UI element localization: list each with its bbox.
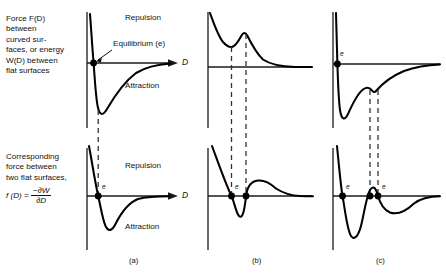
panel-label-a: (a)	[129, 256, 138, 265]
panel-a-top-axis-label: D	[182, 57, 188, 67]
panel-c-bottom-equilibrium-dot-1	[339, 193, 346, 200]
panel-c-bottom-e-label-2: e	[382, 183, 386, 190]
panel-c-top-equilibrium-dot	[334, 61, 341, 68]
panel-a-bottom-axis-label: D	[182, 190, 188, 200]
panel-c-bottom-curve	[337, 146, 440, 238]
panel-a-bottom-equilibrium-dot	[95, 193, 102, 200]
figure-container: Force F(D) between curved sur- faces, or…	[0, 0, 446, 274]
equilibrium-annotation: Equilibrium (e)	[113, 39, 165, 48]
panel-b-top-curve	[210, 13, 312, 67]
figure-plot-area	[0, 0, 446, 274]
panel-c-bottom-zero-dot	[367, 193, 374, 200]
panel-b-bottom-zero-dot	[243, 193, 250, 200]
panel-c-top-e-label: e	[340, 50, 344, 57]
panel-a-top-repulsion-label: Repulsion	[125, 13, 161, 22]
panel-a-bottom-e-label: e	[102, 183, 106, 190]
panel-a-top-equilibrium-dot	[90, 60, 97, 67]
panel-label-c: (c)	[376, 256, 385, 265]
panel-label-b: (b)	[252, 256, 261, 265]
panel-a-top-attraction-label: Attraction	[125, 81, 159, 90]
panel-a-bottom-attraction-label: Attraction	[125, 222, 159, 231]
panel-c-bottom-equilibrium-dot-2	[375, 193, 382, 200]
panel-b-bottom-equilibrium-dot	[228, 193, 235, 200]
panel-a-equilibrium-leader	[98, 50, 113, 60]
panel-b-bottom-e-label: e	[235, 183, 239, 190]
panel-c-top-curve	[336, 13, 440, 119]
panel-a-bottom-repulsion-label: Repulsion	[125, 161, 161, 170]
panel-c-bottom-e-label-1: e	[346, 183, 350, 190]
panel-a-top-curve	[90, 14, 170, 114]
panel-a-equilibrium-arrow-icon	[96, 58, 102, 63]
panel-b-bottom-curve	[212, 146, 313, 217]
